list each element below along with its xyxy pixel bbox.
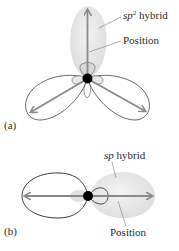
sp-hybrid-suffix: hybrid [114, 149, 145, 161]
sp2-arrow-lower-right [88, 79, 145, 111]
panel-a-tag: (a) [4, 119, 16, 131]
nucleus-b [83, 191, 93, 201]
sp2-hybrid-prefix: sp [123, 9, 133, 21]
sp2-hybrid-label: sp2 hybrid [123, 9, 168, 21]
sp-position-label: Position [110, 226, 146, 238]
sp2-hybrid-suffix: hybrid [136, 9, 167, 21]
sp2-position-label: Position [123, 34, 159, 46]
sp-hybrid-prefix: sp [104, 149, 114, 161]
panel-b-tag: (b) [4, 225, 17, 237]
panel-b-sp [22, 162, 155, 226]
sp2-hybrid-superscript: 2 [133, 9, 137, 17]
panel-a-sp2 [26, 6, 150, 120]
sp-hybrid-label: sp hybrid [104, 149, 145, 161]
nucleus-a [83, 74, 93, 84]
sp-lobe-shaded [90, 172, 155, 218]
